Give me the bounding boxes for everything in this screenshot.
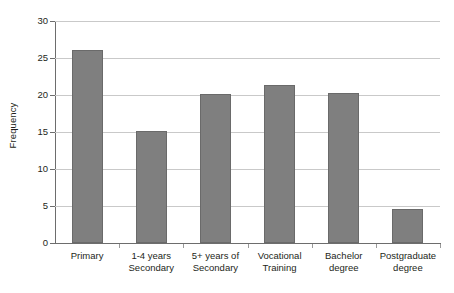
x-axis-label-line: Secondary: [119, 262, 183, 274]
x-axis-category-label: Primary: [55, 250, 119, 262]
bar: [72, 50, 103, 243]
x-axis-label-line: degree: [312, 262, 376, 274]
x-axis-tick-mark: [183, 244, 184, 248]
y-axis-tick-label: 0: [4, 238, 48, 248]
y-axis-tick-mark: [50, 21, 55, 22]
x-axis-label-line: 5+ years of: [183, 250, 247, 262]
x-axis-label-line: Bachelor: [312, 250, 376, 262]
bar-chart: Frequency 051015202530 Primary1-4 yearsS…: [0, 0, 454, 293]
y-axis-tick-mark: [50, 169, 55, 170]
x-axis-label-line: degree: [376, 262, 440, 274]
x-axis-category-label: Postgraduatedegree: [376, 250, 440, 273]
y-axis-tick-label: 10: [4, 164, 48, 174]
y-axis-tick-label: 30: [4, 16, 48, 26]
x-axis-tick-mark: [440, 244, 441, 248]
x-axis-label-line: 1-4 years: [119, 250, 183, 262]
plot-area: [55, 21, 440, 243]
x-axis-label-line: Secondary: [183, 262, 247, 274]
y-axis-tick-mark: [50, 206, 55, 207]
y-axis-tick-label: 15: [4, 127, 48, 137]
y-axis-tick-labels: 051015202530: [0, 0, 48, 293]
gridline: [55, 206, 440, 207]
y-axis-tick-mark: [50, 58, 55, 59]
x-axis-tick-mark: [376, 244, 377, 248]
bar: [200, 94, 231, 243]
x-axis-category-label: VocationalTraining: [248, 250, 312, 273]
x-axis-label-line: Training: [248, 262, 312, 274]
y-axis-tick-mark: [50, 243, 55, 244]
y-axis-tick-label: 20: [4, 90, 48, 100]
y-axis-tick-mark: [50, 95, 55, 96]
x-axis-category-labels: Primary1-4 yearsSecondary5+ years ofSeco…: [55, 250, 441, 290]
y-axis-tick-label: 25: [4, 53, 48, 63]
x-axis-label-line: Primary: [55, 250, 119, 262]
x-axis-category-label: Bachelordegree: [312, 250, 376, 273]
x-axis-tick-mark: [312, 244, 313, 248]
gridline: [55, 169, 440, 170]
bar: [136, 131, 167, 243]
bar: [328, 93, 359, 243]
x-axis-tick-mark: [248, 244, 249, 248]
bar: [264, 85, 295, 243]
x-axis-category-label: 1-4 yearsSecondary: [119, 250, 183, 273]
bar: [392, 209, 423, 243]
x-axis-label-line: Postgraduate: [376, 250, 440, 262]
y-axis-tick-label: 5: [4, 201, 48, 211]
gridline: [55, 21, 440, 22]
x-axis-tick-mark: [119, 244, 120, 248]
gridline: [55, 58, 440, 59]
x-axis-category-label: 5+ years ofSecondary: [183, 250, 247, 273]
gridline: [55, 95, 440, 96]
gridline: [55, 132, 440, 133]
x-axis-label-line: Vocational: [248, 250, 312, 262]
y-axis-tick-mark: [50, 132, 55, 133]
